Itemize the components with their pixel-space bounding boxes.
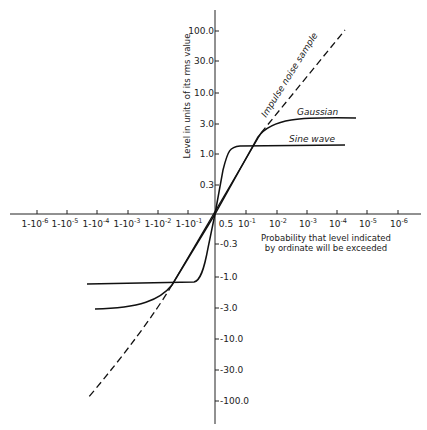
svg-text:10-1: 10-1 xyxy=(238,217,256,229)
svg-text:0.5: 0.5 xyxy=(219,219,233,229)
x-ticks-left xyxy=(37,210,188,214)
svg-text:-0.3: -0.3 xyxy=(220,239,238,249)
svg-text:1.0: 1.0 xyxy=(200,149,215,159)
svg-text:1-10-4: 1-10-4 xyxy=(83,217,110,229)
svg-text:1-10-1: 1-10-1 xyxy=(176,217,203,229)
svg-text:1-10-2: 1-10-2 xyxy=(145,217,172,229)
svg-text:10.0: 10.0 xyxy=(194,88,214,98)
y-ticks-negative xyxy=(215,244,219,401)
y-tick-labels-negative: -0.3 -1.0 -3.0 -10.0 -30.0 -100.0 xyxy=(220,239,249,406)
x-tick-labels-right: 0.5 10-1 10-2 10-3 10-4 10-5 10-6 xyxy=(219,217,408,229)
x-axis-label-line1: Probability that level indicated xyxy=(261,233,391,243)
svg-text:10-6: 10-6 xyxy=(390,217,408,229)
svg-text:10-3: 10-3 xyxy=(299,217,317,229)
svg-text:-30.0: -30.0 xyxy=(220,365,244,375)
label-impulse-noise: Impulse noise sample xyxy=(259,30,320,119)
svg-text:-1.0: -1.0 xyxy=(220,272,238,282)
svg-text:-3.0: -3.0 xyxy=(220,303,238,313)
probability-level-chart: 1-10-6 1-10-5 1-10-4 1-10-3 1-10-2 1-10-… xyxy=(0,0,427,430)
svg-text:10-2: 10-2 xyxy=(269,217,287,229)
svg-text:3.0: 3.0 xyxy=(200,119,215,129)
svg-text:1-10-5: 1-10-5 xyxy=(52,217,79,229)
svg-text:100.0: 100.0 xyxy=(188,26,214,36)
svg-text:10-5: 10-5 xyxy=(359,217,377,229)
svg-text:-10.0: -10.0 xyxy=(220,334,244,344)
x-ticks-right xyxy=(246,210,398,214)
label-gaussian: Gaussian xyxy=(297,107,339,117)
label-sine-wave: Sine wave xyxy=(289,134,336,144)
svg-text:0.3: 0.3 xyxy=(200,180,214,190)
y-ticks-positive xyxy=(215,31,219,185)
x-tick-labels-left: 1-10-6 1-10-5 1-10-4 1-10-3 1-10-2 1-10-… xyxy=(22,217,203,229)
y-tick-labels-positive: 100.0 30.0 10.0 3.0 1.0 0.3 xyxy=(188,26,214,190)
svg-text:1-10-3: 1-10-3 xyxy=(114,217,141,229)
svg-text:10-4: 10-4 xyxy=(329,217,347,229)
svg-text:-100.0: -100.0 xyxy=(220,396,249,406)
svg-text:1-10-6: 1-10-6 xyxy=(22,217,49,229)
x-axis-label-line2: by ordinate will be exceeded xyxy=(265,243,387,253)
y-axis-label: Level in units of its rms value xyxy=(182,34,192,159)
svg-text:30.0: 30.0 xyxy=(194,56,214,66)
